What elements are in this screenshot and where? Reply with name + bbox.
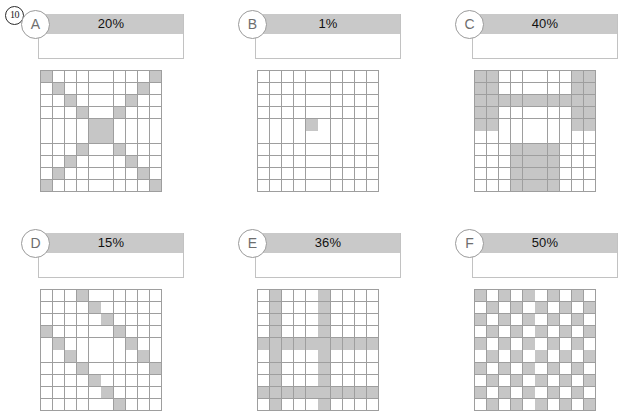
grid-cell[interactable] [306, 144, 317, 155]
grid-cell[interactable] [367, 131, 378, 142]
grid-cell[interactable] [572, 131, 583, 142]
grid-cell[interactable] [294, 326, 305, 337]
grid-cell[interactable] [270, 290, 281, 301]
grid-cell[interactable] [294, 131, 305, 142]
grid-cell[interactable] [114, 131, 125, 142]
grid-cell[interactable] [487, 350, 498, 361]
grid-cell[interactable] [343, 144, 354, 155]
grid-cell[interactable] [487, 144, 498, 155]
grid-cell[interactable] [487, 119, 498, 130]
grid-cell[interactable] [584, 156, 595, 167]
grid-cell[interactable] [270, 107, 281, 118]
grid-cell[interactable] [572, 399, 583, 410]
grid-cell[interactable] [355, 399, 366, 410]
grid-cell[interactable] [343, 156, 354, 167]
grid-cell[interactable] [548, 71, 559, 82]
grid-cell[interactable] [65, 290, 76, 301]
grid-cell[interactable] [270, 399, 281, 410]
grid-cell[interactable] [65, 338, 76, 349]
grid-cell[interactable] [270, 338, 281, 349]
grid-cell[interactable] [584, 302, 595, 313]
grid-cell[interactable] [65, 350, 76, 361]
grid-cell[interactable] [487, 326, 498, 337]
grid-cell[interactable] [89, 83, 100, 94]
grid-cell[interactable] [331, 314, 342, 325]
grid-cell[interactable] [535, 338, 546, 349]
grid-cell[interactable] [499, 95, 510, 106]
grid-cell[interactable] [126, 350, 137, 361]
grid-cell[interactable] [126, 107, 137, 118]
grid-cell[interactable] [41, 363, 52, 374]
grid-cell[interactable] [572, 338, 583, 349]
grid-cell[interactable] [77, 350, 88, 361]
grid-cell[interactable] [331, 399, 342, 410]
grid-cell[interactable] [101, 290, 112, 301]
pattern-grid-f[interactable] [474, 289, 596, 411]
grid-cell[interactable] [318, 387, 329, 398]
grid-cell[interactable] [114, 375, 125, 386]
grid-cell[interactable] [343, 83, 354, 94]
grid-cell[interactable] [511, 314, 522, 325]
grid-cell[interactable] [138, 375, 149, 386]
grid-cell[interactable] [523, 363, 534, 374]
grid-cell[interactable] [89, 326, 100, 337]
grid-cell[interactable] [306, 290, 317, 301]
grid-cell[interactable] [53, 180, 64, 191]
grid-cell[interactable] [499, 107, 510, 118]
grid-cell[interactable] [270, 144, 281, 155]
grid-cell[interactable] [535, 156, 546, 167]
grid-cell[interactable] [114, 95, 125, 106]
grid-cell[interactable] [65, 168, 76, 179]
grid-cell[interactable] [65, 95, 76, 106]
grid-cell[interactable] [41, 314, 52, 325]
grid-cell[interactable] [53, 363, 64, 374]
grid-cell[interactable] [53, 156, 64, 167]
grid-cell[interactable] [306, 168, 317, 179]
grid-cell[interactable] [258, 180, 269, 191]
grid-cell[interactable] [53, 387, 64, 398]
grid-cell[interactable] [355, 314, 366, 325]
grid-cell[interactable] [548, 302, 559, 313]
grid-cell[interactable] [331, 338, 342, 349]
grid-cell[interactable] [282, 375, 293, 386]
grid-cell[interactable] [560, 387, 571, 398]
grid-cell[interactable] [114, 363, 125, 374]
grid-cell[interactable] [89, 71, 100, 82]
grid-cell[interactable] [89, 338, 100, 349]
grid-cell[interactable] [126, 71, 137, 82]
grid-cell[interactable] [65, 375, 76, 386]
grid-cell[interactable] [572, 290, 583, 301]
grid-cell[interactable] [258, 363, 269, 374]
grid-cell[interactable] [282, 83, 293, 94]
grid-cell[interactable] [114, 290, 125, 301]
grid-cell[interactable] [294, 156, 305, 167]
grid-cell[interactable] [560, 375, 571, 386]
grid-cell[interactable] [367, 180, 378, 191]
grid-cell[interactable] [77, 314, 88, 325]
grid-cell[interactable] [270, 387, 281, 398]
grid-cell[interactable] [101, 399, 112, 410]
grid-cell[interactable] [584, 131, 595, 142]
grid-cell[interactable] [560, 156, 571, 167]
grid-cell[interactable] [572, 119, 583, 130]
grid-cell[interactable] [126, 156, 137, 167]
grid-cell[interactable] [101, 168, 112, 179]
grid-cell[interactable] [343, 168, 354, 179]
grid-cell[interactable] [294, 168, 305, 179]
grid-cell[interactable] [270, 314, 281, 325]
grid-cell[interactable] [487, 83, 498, 94]
grid-cell[interactable] [41, 387, 52, 398]
grid-cell[interactable] [318, 338, 329, 349]
grid-cell[interactable] [584, 387, 595, 398]
grid-cell[interactable] [114, 387, 125, 398]
grid-cell[interactable] [487, 107, 498, 118]
grid-cell[interactable] [355, 168, 366, 179]
grid-cell[interactable] [114, 399, 125, 410]
grid-cell[interactable] [114, 350, 125, 361]
grid-cell[interactable] [355, 387, 366, 398]
grid-cell[interactable] [535, 302, 546, 313]
grid-cell[interactable] [475, 107, 486, 118]
grid-cell[interactable] [258, 119, 269, 130]
grid-cell[interactable] [270, 302, 281, 313]
grid-cell[interactable] [41, 119, 52, 130]
